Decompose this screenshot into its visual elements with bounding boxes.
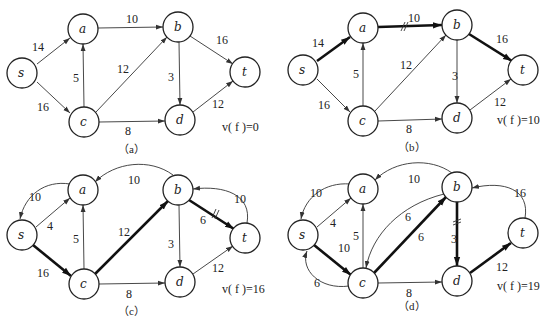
node-a: a (348, 13, 378, 43)
edge-label-b-a: 10 (128, 173, 140, 187)
edge-c-a (83, 205, 84, 269)
edge-a-b (378, 25, 442, 27)
node-c: c (69, 269, 99, 299)
flow-value: v( f )=19 (497, 279, 540, 293)
svg-text:d: d (176, 275, 184, 289)
edge-label-b-d: 3 (452, 69, 458, 83)
edge-c-d (378, 282, 442, 283)
svg-text:t: t (242, 65, 247, 79)
edge-label-c-b: 12 (117, 62, 129, 76)
node-a: a (348, 174, 378, 204)
node-t: t (508, 218, 538, 248)
edge-label-c-d: 8 (406, 122, 412, 136)
panel-d: 10 4 10 6 5 10 6 6 8 3 16 12 s a b t c d… (288, 163, 540, 312)
svg-text:s: s (18, 66, 24, 80)
node-b: b (163, 12, 193, 42)
edge-label-d-t: 12 (212, 97, 224, 111)
edge-label-b-a: 10 (408, 172, 420, 186)
svg-text:a: a (79, 22, 86, 36)
node-d: d (165, 105, 195, 135)
node-a: a (68, 14, 98, 44)
edge-b-d (179, 42, 180, 105)
edge-a-s (301, 184, 350, 219)
edge-label-b-d: 3 (168, 237, 174, 251)
edge-label-s-a: 14 (312, 36, 324, 50)
panel-caption: （d） (398, 300, 426, 312)
node-d: d (442, 266, 472, 296)
svg-text:s: s (299, 63, 305, 77)
edge-label-d-t: 12 (212, 261, 224, 275)
node-s: s (288, 220, 318, 250)
svg-text:c: c (80, 115, 87, 129)
edge-label-c-s: 6 (314, 276, 320, 290)
edge-label-b-t: 16 (496, 32, 508, 46)
edge-a-b (98, 27, 163, 28)
node-s: s (7, 220, 37, 250)
edge-c-b (95, 201, 168, 274)
svg-text:b: b (174, 20, 182, 34)
edge-label-a-s: 10 (29, 190, 41, 204)
edge-label-t-b: 10 (234, 192, 246, 206)
edge-b-t (189, 200, 234, 229)
edge-label-a-s: 10 (310, 186, 322, 200)
svg-text:a: a (79, 183, 86, 197)
edge-label-c-a: 5 (353, 229, 359, 243)
node-c: c (69, 107, 99, 137)
node-b: b (163, 175, 193, 205)
edge-label-s-c: 10 (338, 241, 350, 255)
edge-s-a (36, 198, 70, 227)
edge-label-c-d: 8 (406, 286, 412, 300)
node-s: s (288, 55, 318, 85)
edge-c-b (374, 197, 446, 273)
panel-caption: （b） (398, 141, 426, 153)
edge-label-b-c: 6 (405, 210, 411, 224)
node-d: d (442, 103, 472, 133)
panel-caption: （c） (118, 305, 145, 317)
edge-label-t-b: 16 (514, 186, 526, 200)
panel-b: 14 16 5 10 12 8 3 16 12 s a b t c d v( f… (288, 10, 540, 153)
edge-label-b-t: 16 (216, 33, 228, 47)
svg-text:d: d (176, 113, 184, 127)
svg-text:b: b (453, 18, 461, 32)
node-c: c (348, 106, 378, 136)
flow-value: v( f )=0 (222, 120, 259, 134)
svg-text:b: b (453, 180, 461, 194)
edge-a-s (20, 183, 70, 219)
edge-label-b-t: 6 (200, 213, 206, 227)
panel-caption: （a） (118, 143, 145, 155)
node-d: d (165, 267, 195, 297)
edge-label-a-b: 10 (126, 12, 138, 26)
edge-c-a (83, 44, 84, 107)
edge-label-s-a: 14 (32, 40, 44, 54)
edge-label-s-a: 4 (47, 219, 53, 233)
flow-network-figure: 14 16 5 10 12 8 3 16 12 s a b t c d v( f… (0, 0, 551, 329)
svg-text:c: c (80, 277, 87, 291)
svg-text:t: t (520, 226, 525, 240)
node-a: a (68, 175, 98, 205)
panel-a: 14 16 5 10 12 8 3 16 12 s a b t c d v( f… (7, 12, 260, 155)
edge-label-c-a: 5 (73, 232, 79, 246)
edge-label-c-d: 8 (126, 287, 132, 301)
edge-b-c (366, 194, 444, 268)
svg-text:t: t (520, 63, 525, 77)
node-t: t (508, 55, 538, 85)
edge-label-c-d: 8 (125, 124, 131, 138)
edge-b-d (179, 205, 180, 267)
edge-label-b-d: 3 (168, 70, 174, 84)
flow-value: v( f )=10 (497, 113, 540, 127)
svg-text:d: d (453, 274, 461, 288)
edge-label-a-b: 10 (408, 11, 420, 25)
edge-label-s-c: 16 (318, 98, 330, 112)
edge-label-c-a: 5 (73, 71, 79, 85)
node-b: b (442, 10, 472, 40)
edge-c-b (375, 35, 446, 111)
flow-value: v( f )=16 (222, 282, 265, 296)
node-t: t (230, 57, 260, 87)
node-c: c (348, 268, 378, 298)
panel-c: 10 4 16 5 10 12 8 3 6 10 12 s a b t c d … (7, 164, 265, 317)
edge-label-s-c: 16 (37, 100, 49, 114)
edge-label-d-t: 12 (496, 260, 508, 274)
node-b: b (442, 172, 472, 202)
svg-text:b: b (174, 183, 182, 197)
svg-text:t: t (242, 231, 247, 245)
